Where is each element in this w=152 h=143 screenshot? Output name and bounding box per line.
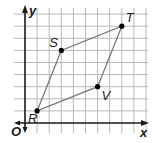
point-s — [59, 48, 64, 53]
point-v — [95, 84, 100, 89]
y-axis-arrow-icon — [22, 5, 28, 13]
point-t — [119, 24, 124, 29]
point-label-t: T — [126, 10, 135, 25]
y-axis-neg-arrow-icon — [23, 127, 28, 133]
point-label-s: S — [49, 35, 58, 50]
origin-label: O — [11, 124, 21, 139]
coordinate-grid-figure: x y O RSTV — [0, 0, 152, 143]
point-label-v: V — [102, 88, 112, 103]
y-axis-label: y — [28, 3, 37, 18]
x-axis-label: x — [139, 125, 148, 140]
point-label-r: R — [28, 111, 37, 126]
